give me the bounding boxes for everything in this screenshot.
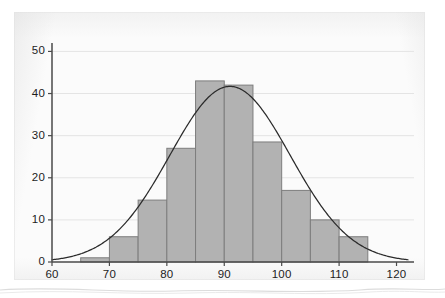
x-tick-label-90: 90 <box>204 269 244 281</box>
histogram-bar-90-95 <box>224 85 253 262</box>
histogram-bar-80-85 <box>167 148 196 262</box>
x-tick-label-100: 100 <box>262 269 302 281</box>
histogram-bar-70-75 <box>109 237 138 262</box>
histogram-bar-95-100 <box>253 142 282 262</box>
y-tick-label-0: 0 <box>38 256 45 268</box>
histogram-bar-105-110 <box>310 220 339 262</box>
scan-page-edge <box>0 283 445 298</box>
x-tick-label-120: 120 <box>377 269 417 281</box>
y-tick-label-10: 10 <box>32 214 45 226</box>
figure-panel: 50 40 30 20 10 0 60 70 80 90 100 110 120 <box>14 12 425 280</box>
page-root: 50 40 30 20 10 0 60 70 80 90 100 110 120 <box>0 0 445 298</box>
plot-area: 50 40 30 20 10 0 60 70 80 90 100 110 120 <box>14 12 425 280</box>
histogram-bar-100-105 <box>282 190 311 262</box>
histogram-bar-85-90 <box>196 81 225 262</box>
y-tick-label-30: 30 <box>32 130 45 142</box>
x-tick-label-80: 80 <box>147 269 187 281</box>
x-tick-label-110: 110 <box>319 269 359 281</box>
x-tick-label-70: 70 <box>89 269 129 281</box>
y-tick-label-40: 40 <box>32 88 45 100</box>
histogram-bar-75-80 <box>138 200 167 262</box>
bars <box>81 81 368 262</box>
histogram-chart <box>14 12 425 280</box>
y-tick-label-20: 20 <box>32 172 45 184</box>
x-tick-label-60: 60 <box>32 269 72 281</box>
y-tick-label-50: 50 <box>32 45 45 57</box>
